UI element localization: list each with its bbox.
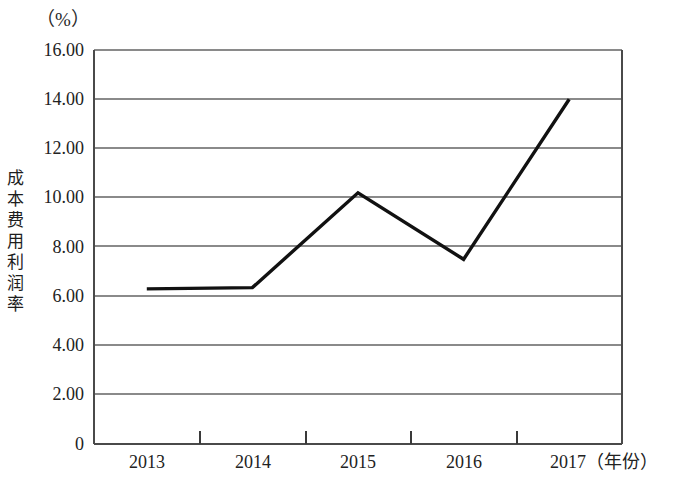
x-tick-label-2017-with-unit: 2017（年份） <box>550 452 658 472</box>
x-tick-label-2013: 2013 <box>129 452 165 472</box>
x-axis-ticks <box>200 431 517 444</box>
x-axis-tick-labels: 2013 2014 2015 2016 2017（年份） <box>0 452 673 482</box>
gridlines <box>94 50 622 394</box>
x-tick-label-2015: 2015 <box>340 452 376 472</box>
axis-lines <box>94 50 622 444</box>
line-chart: （%） 成本费用利润率 16.00 14.00 12.00 10.00 8.00… <box>0 0 673 482</box>
x-tick-label-2016: 2016 <box>446 452 482 472</box>
plot-area <box>0 0 673 482</box>
x-tick-label-2014: 2014 <box>235 452 271 472</box>
data-series-line <box>147 99 569 289</box>
